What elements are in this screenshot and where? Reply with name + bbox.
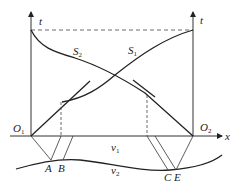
tangent-left (31, 81, 90, 136)
tangent-right (133, 80, 155, 97)
curve-s1 (62, 30, 193, 102)
point-a-label: A (45, 163, 52, 174)
v2-label: v2 (111, 165, 119, 178)
s2-label: S2 (73, 46, 82, 59)
point-c-label: C (164, 172, 171, 183)
origin-o2-label: O2 (200, 122, 211, 135)
ray-c (147, 136, 168, 170)
origin-o1-label: O1 (13, 123, 24, 136)
ray-c2 (155, 136, 176, 170)
right-t-label: t (200, 15, 203, 26)
diagram-svg (0, 0, 242, 193)
v1-label: v1 (111, 142, 119, 155)
diagram-canvas: t t x O1 O2 S2 S1 v1 v2 A B C E (0, 0, 242, 193)
point-b-label: B (58, 163, 65, 174)
x-label: x (225, 131, 230, 142)
ray-o1-a (31, 136, 51, 160)
point-e-label: E (174, 172, 181, 183)
s1-label: S1 (128, 45, 137, 58)
curve-s2 (31, 30, 193, 136)
left-t-label: t (39, 16, 42, 27)
ray-a (51, 136, 61, 160)
ray-b (63, 136, 73, 160)
ray-o2-e (176, 136, 193, 170)
